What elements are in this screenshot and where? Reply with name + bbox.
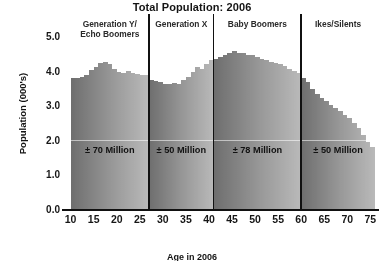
x-axis-tick-label: 20 [111,213,123,225]
generation-annotation: ± 78 Million [214,145,302,155]
x-axis-tick-label: 10 [65,213,77,225]
x-axis-tick-label: 45 [226,213,238,225]
x-axis-tick-label: 65 [318,213,330,225]
x-axis-line [62,209,379,211]
x-axis-caption: Age in 2006 [0,252,384,261]
generation-label: Generation Y/ Echo Boomers [71,20,149,39]
y-axis-tick-label: 4.0 [46,65,60,76]
generation-label: Baby Boomers [214,20,302,30]
generation-label: Generation X [149,20,214,30]
y-axis-tick-label: 2.0 [46,134,60,145]
x-axis-tick-label: 70 [341,213,353,225]
y-axis-tick-label: 5.0 [46,31,60,42]
generation-label: Ikes/Silents [301,20,375,30]
x-axis-tick-label: 60 [295,213,307,225]
x-axis-tick-label: 75 [365,213,377,225]
histogram-bar [370,147,375,209]
y-axis-tick-label: 0.0 [46,204,60,215]
x-axis-tick-label: 30 [157,213,169,225]
y-axis-tick-label: 1.0 [46,169,60,180]
x-axis-tick-label: 35 [180,213,192,225]
y-axis-tick-label: 3.0 [46,100,60,111]
generation-annotation: ± 70 Million [71,145,149,155]
y-axis-title: Population (000's) [17,44,28,184]
x-axis-tick-label: 50 [249,213,261,225]
x-axis-tick-label: 15 [88,213,100,225]
generation-annotation: ± 50 Million [301,145,375,155]
generation-annotation: ± 50 Million [149,145,214,155]
x-axis-tick-label: 25 [134,213,146,225]
x-axis-tick-label: 55 [272,213,284,225]
plot-area: 5.04.03.02.01.00.0 [66,36,375,209]
x-axis-tick-label: 40 [203,213,215,225]
page-title: Total Population: 2006 [0,1,384,13]
